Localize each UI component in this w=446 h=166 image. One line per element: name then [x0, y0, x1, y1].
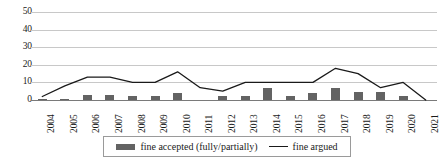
line-series: [31, 12, 437, 100]
x-axis-tick-label-2004: 2004: [46, 99, 56, 133]
x-axis-tick-label-2014: 2014: [272, 99, 282, 133]
plot-area: [31, 12, 437, 100]
x-axis: 2004200520062007200820092010201120122013…: [31, 101, 437, 135]
x-axis-tick-label-2016: 2016: [317, 99, 327, 133]
legend-item-label: fine argued: [293, 141, 338, 152]
y-axis-tick-label: 0: [6, 95, 32, 105]
y-axis-tick-label: 40: [6, 25, 32, 35]
x-axis-tick-label-2007: 2007: [114, 99, 124, 133]
legend-bar-swatch-icon: [116, 144, 135, 150]
legend-item-label: fine accepted (fully/partially): [140, 141, 257, 152]
x-axis-tick-label-2006: 2006: [91, 99, 101, 133]
legend-item-fine-argued: fine argued: [269, 141, 338, 152]
y-axis-tick-label: 30: [6, 42, 32, 52]
x-axis-tick-label-2018: 2018: [362, 99, 372, 133]
x-axis-tick-label-2011: 2011: [204, 99, 214, 133]
chart-container: 50 40 30 20 10 0 20042005200620072008200…: [0, 0, 446, 166]
x-axis-tick-label-2005: 2005: [69, 99, 79, 133]
x-axis-tick-label-2015: 2015: [294, 99, 304, 133]
x-axis-tick-label-2017: 2017: [340, 99, 350, 133]
y-axis-tick-label: 20: [6, 60, 32, 70]
x-axis-tick-label-2013: 2013: [249, 99, 259, 133]
y-axis-tick-label: 10: [6, 77, 32, 87]
x-axis-tick-label-2010: 2010: [182, 99, 192, 133]
x-axis-tick-label-2008: 2008: [137, 99, 147, 133]
x-axis-tick-label-2009: 2009: [159, 99, 169, 133]
legend-line-swatch-icon: [269, 146, 288, 147]
x-axis-tick-label-2021: 2021: [430, 99, 440, 133]
y-axis-tick-label: 50: [6, 7, 32, 17]
x-axis-tick-label-2020: 2020: [407, 99, 417, 133]
legend-item-fine-accepted: fine accepted (fully/partially): [116, 141, 257, 152]
chart-legend: fine accepted (fully/partially) fine arg…: [103, 136, 351, 157]
x-axis-tick-label-2019: 2019: [385, 99, 395, 133]
line-series-path: [42, 68, 425, 100]
x-axis-tick-label-2012: 2012: [227, 99, 237, 133]
